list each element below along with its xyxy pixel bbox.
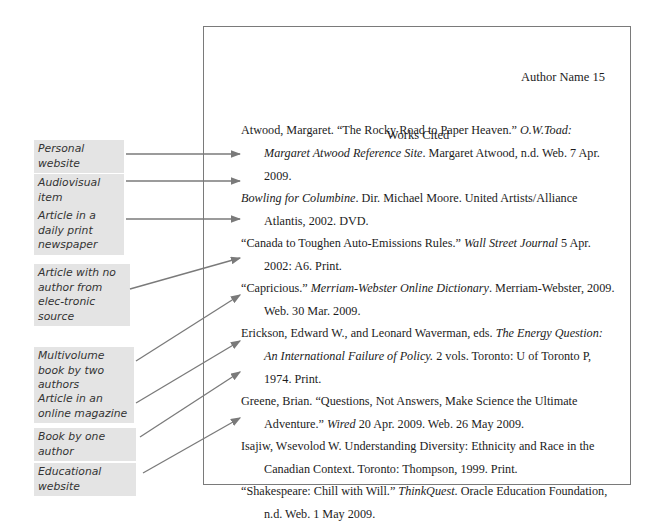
citation-shakespeare: “Shakespeare: Chill with Will.” ThinkQue… [241, 480, 616, 525]
citation-title-italic: Bowling for Columbine [241, 191, 355, 205]
citation-text: Atwood, Margaret. “The Rocky Road to Pap… [241, 123, 520, 137]
works-cited-page: Author Name 15 Works Cited Atwood, Marga… [203, 26, 631, 485]
citation-text: “Shakespeare: Chill with Will.” [241, 484, 398, 498]
label-book-one-author: Book by one author [34, 428, 136, 461]
citation-title-italic: Merriam-Webster Online Dictionary [311, 281, 489, 295]
citation-title-italic: Wired [327, 417, 356, 431]
citation-greene: Greene, Brian. “Questions, Not Answers, … [241, 390, 616, 436]
label-audiovisual-item: Audiovisual item [34, 174, 124, 207]
label-online-magazine: Article in an online magazine [34, 390, 134, 423]
citation-isajiw: Isajiw, Wsevolod W. Understanding Divers… [241, 435, 616, 481]
label-multivolume-book: Multivolume book by two authors [34, 347, 134, 395]
citation-erickson: Erickson, Edward W., and Leonard Waverma… [241, 322, 616, 390]
label-educational-website: Educational website [34, 463, 136, 496]
citation-text: 20 Apr. 2009. Web. 26 May 2009. [356, 417, 524, 431]
citation-text: “Canada to Toughen Auto-Emissions Rules.… [241, 236, 464, 250]
citation-atwood: Atwood, Margaret. “The Rocky Road to Pap… [241, 119, 616, 187]
label-no-author-electronic: Article with no author from elec-tronic … [34, 264, 130, 326]
citation-canada: “Canada to Toughen Auto-Emissions Rules.… [241, 232, 616, 278]
citation-capricious: “Capricious.” Merriam-Webster Online Dic… [241, 277, 616, 323]
label-personal-website: Personal website [34, 140, 124, 173]
label-daily-newspaper: Article in a daily print newspaper [34, 207, 124, 255]
citation-bowling: Bowling for Columbine. Dir. Michael Moor… [241, 187, 616, 233]
citation-title-italic: Wall Street Journal [464, 236, 558, 250]
citation-title-italic: ThinkQuest [398, 484, 454, 498]
citation-text: Erickson, Edward W., and Leonard Waverma… [241, 326, 496, 340]
citation-text: “Capricious.” [241, 281, 311, 295]
running-header: Author Name 15 [204, 70, 632, 85]
citation-text: Isajiw, Wsevolod W. Understanding Divers… [241, 439, 594, 476]
